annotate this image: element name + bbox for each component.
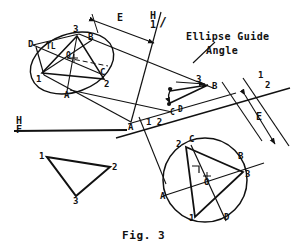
fold-label-h-f-bottom: F	[16, 125, 22, 134]
fold-label-1-2-bottom: 2	[265, 81, 270, 90]
fold-label-h-1-bottom: 1	[150, 20, 156, 29]
fold-line-label-h-f: H F	[16, 116, 22, 134]
edge-view-plane-line	[116, 88, 290, 138]
top-view-label-2: 2	[104, 80, 109, 89]
front-view-group	[47, 157, 110, 196]
top-view-label-D: D	[28, 40, 33, 49]
projector-D-ray	[33, 34, 79, 45]
top-view-label-O: O	[66, 52, 71, 60]
edge-view-label-C: C	[170, 109, 175, 117]
figure-3-drawing: D TL O 1 2 3 A B C E H 1 / Ellipse Guide…	[0, 0, 305, 247]
fold-label-1-2-top: 1	[258, 71, 263, 80]
fold-line-h-1	[131, 12, 161, 122]
aux-view-label-C: C	[189, 135, 194, 144]
edge-view-label-D: D	[178, 106, 183, 114]
top-view-label-B: B	[88, 33, 93, 42]
aux-view-label-2: 2	[176, 140, 181, 149]
angle-vertex-dot-upper	[168, 87, 172, 91]
aux-view-label-A: A	[160, 192, 165, 201]
top-view-group	[22, 21, 123, 105]
front-view-label-1: 1	[39, 152, 44, 161]
edge-view-label-A: A	[128, 123, 133, 132]
right-angle-mark	[192, 166, 199, 173]
edge-view-label-3: 3	[196, 75, 201, 84]
projection-band-group	[33, 34, 213, 122]
top-view-label-1: 1	[36, 75, 41, 84]
aux-line-A-B	[163, 163, 264, 196]
note-ellipse-guide-line1: Ellipse Guide	[186, 32, 269, 42]
fold-line-12-group	[139, 78, 289, 184]
dimension-label-e-right: E	[256, 112, 262, 122]
dimension-label-e-top: E	[117, 13, 123, 23]
projector-lower-edge	[44, 75, 131, 122]
aux-view-label-1: 1	[189, 214, 194, 223]
top-view-label-TL: TL	[46, 43, 56, 51]
front-view-label-2: 2	[112, 163, 117, 172]
top-view-label-3: 3	[73, 25, 78, 34]
projector-left-edge	[36, 47, 44, 75]
edge-view-label-1-2: 1 2	[146, 118, 162, 127]
ellipse-guide-angle-vee	[168, 85, 208, 104]
angle-vertex-dot-lower	[167, 102, 171, 106]
figure-caption: Fig. 3	[122, 230, 165, 241]
extension-line-top-left	[92, 14, 98, 33]
projector-mid-edge	[70, 90, 172, 112]
note-ellipse-guide-line2: Angle	[206, 46, 238, 56]
aux-view-label-3: 3	[245, 170, 250, 179]
top-view-label-C: C	[100, 68, 105, 77]
fold-line-label-h-1: H 1	[150, 11, 156, 29]
dimension-e-top	[95, 21, 154, 43]
fold-line-h-f	[14, 130, 127, 131]
aux-view-group	[163, 138, 264, 222]
aux-view-label-D: D	[224, 213, 229, 222]
edge-view-label-B: B	[212, 82, 217, 91]
fold-slash-h-1: /	[159, 14, 167, 29]
aux-view-label-B: B	[238, 152, 243, 161]
top-view-label-A: A	[64, 91, 69, 100]
front-view-label-3: 3	[73, 197, 78, 206]
front-view-triangle	[47, 157, 110, 196]
aux-view-triangle	[186, 147, 243, 217]
fold-line-hf-group	[14, 130, 127, 131]
aux-view-label-O: O	[204, 178, 209, 187]
